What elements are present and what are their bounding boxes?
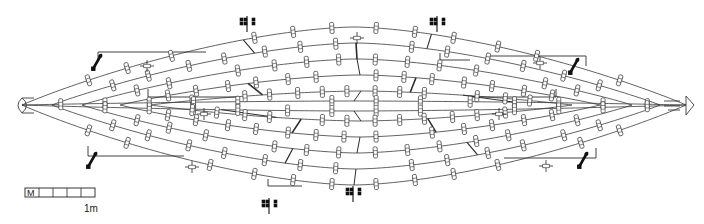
fastening-marker: [225, 80, 230, 91]
fastening-marker-body: [330, 105, 334, 116]
fastening-marker: [402, 71, 407, 82]
fastening-marker-body: [475, 109, 480, 120]
fastening-marker: [505, 129, 511, 141]
frame-timber: [285, 149, 293, 164]
fastening-marker-body: [461, 123, 466, 134]
fastening-marker-body: [345, 115, 349, 126]
fastening-marker: [330, 105, 334, 116]
fastening-marker: [409, 41, 414, 52]
fastening-marker-body: [342, 131, 346, 142]
fastening-marker-body: [253, 123, 258, 134]
fastening-marker: [314, 71, 319, 82]
fastening-marker-body: [320, 114, 324, 125]
fastening-marker: [190, 104, 195, 115]
fastening-marker-body: [596, 119, 603, 131]
fastening-marker-body: [145, 129, 152, 141]
cross-marker-plate: [144, 64, 150, 68]
fastening-marker: [320, 86, 324, 97]
fastening-marker-body: [409, 41, 414, 52]
fastening-marker: [203, 129, 209, 141]
fastening-marker-body: [450, 111, 455, 122]
fastening-marker: [489, 80, 494, 91]
fastening-marker-body: [645, 101, 649, 112]
fastening-marker: [601, 102, 605, 113]
fastening-marker-body: [461, 77, 466, 88]
fastening-marker-body: [374, 178, 379, 189]
cluster-nail: [252, 22, 255, 25]
fastening-marker: [333, 38, 338, 49]
fastening-marker-body: [437, 141, 442, 152]
fastening-marker-body: [336, 147, 341, 158]
fastening-marker-body: [134, 85, 140, 97]
fastening-marker: [412, 174, 417, 185]
cross-marker-upper-left: [140, 60, 154, 72]
frame-timber: [357, 59, 360, 75]
fastening-marker: [489, 119, 495, 130]
bracket-line: [88, 146, 184, 156]
fastening-marker-body: [304, 56, 309, 67]
fastening-marker-body: [243, 109, 248, 120]
diagonal-mark-lower-right: [578, 153, 588, 169]
cluster-nail: [240, 22, 243, 25]
fastening-marker-body: [298, 41, 303, 52]
fastening-marker: [412, 26, 417, 37]
fastening-marker: [468, 96, 472, 107]
diagonal-mark-head: [585, 153, 588, 156]
fastening-marker: [495, 159, 501, 171]
fastening-marker-body: [527, 95, 532, 106]
fastening-marker-body: [304, 144, 309, 155]
fastening-marker-body: [333, 163, 338, 174]
fastening-marker-body: [485, 53, 491, 65]
fastening-marker-body: [166, 77, 172, 89]
cluster-nail: [358, 188, 361, 191]
fastening-marker-body: [430, 73, 435, 84]
fastening-marker: [253, 123, 258, 134]
fastening-marker: [574, 114, 581, 126]
fastening-marker: [521, 114, 527, 126]
fastening-marker-body: [147, 103, 151, 114]
fastening-marker: [422, 113, 427, 124]
fastening-marker: [451, 32, 457, 44]
fastening-marker-body: [286, 73, 291, 84]
fastening-marker-body: [221, 53, 227, 65]
scale-bar-frame: [25, 188, 95, 197]
fastening-marker-body: [320, 86, 324, 97]
fastening-marker: [59, 99, 63, 110]
fastening-marker: [549, 109, 555, 121]
fastening-marker-body: [505, 129, 511, 141]
fastening-marker: [429, 127, 434, 138]
fastening-marker: [214, 107, 219, 118]
fastening-marker-body: [262, 46, 268, 57]
fastening-marker: [520, 60, 526, 72]
cross-marker-plate: [201, 112, 207, 116]
fastening-marker-body: [267, 89, 272, 100]
fastening-marker: [397, 114, 401, 125]
fastening-marker-body: [314, 71, 319, 82]
fastening-marker-body: [451, 32, 457, 44]
scale-bar-caption: 1m: [84, 203, 98, 214]
diagonal-mark-foot: [569, 71, 572, 74]
fastening-marker-body: [549, 109, 555, 121]
fastening-marker-body: [409, 159, 414, 170]
fastening-marker-body: [373, 115, 377, 126]
diagonal-mark-head: [94, 153, 97, 156]
fastening-marker-body: [512, 104, 516, 115]
fastening-marker: [374, 131, 378, 142]
cluster-nail: [240, 18, 243, 21]
cluster-nail: [274, 200, 277, 203]
fastening-marker: [272, 141, 277, 152]
fastening-marker-body: [560, 129, 567, 141]
fastening-marker-body: [412, 26, 417, 37]
fastening-marker-body: [103, 102, 107, 113]
fastening-marker-body: [374, 22, 379, 33]
fastening-marker-body: [437, 60, 442, 71]
fastening-marker: [186, 60, 192, 72]
fastening-marker: [503, 107, 508, 118]
fastening-marker: [616, 124, 623, 136]
fastening-marker: [147, 103, 151, 114]
fastening-marker: [437, 141, 442, 152]
fastening-marker: [461, 123, 466, 134]
fastening-marker-body: [495, 159, 501, 171]
fastening-marker-body: [412, 174, 417, 185]
fastening-marker-body: [236, 104, 240, 115]
